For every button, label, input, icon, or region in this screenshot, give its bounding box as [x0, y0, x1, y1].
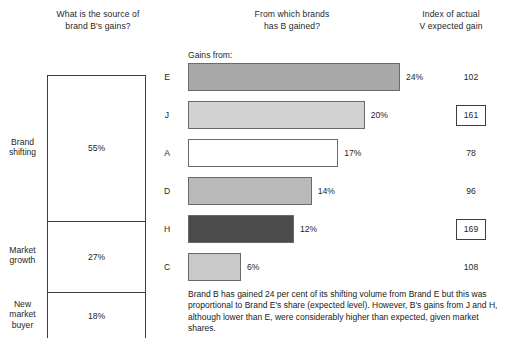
bar-fill — [188, 177, 312, 205]
index-cell: 161 — [440, 101, 502, 129]
bar-track — [188, 101, 400, 129]
bar-fill — [188, 253, 241, 281]
index-cell: 169 — [440, 215, 502, 243]
stack-segment-value: 18% — [88, 311, 105, 321]
stack-segment-label: Brandshifting — [0, 137, 45, 158]
stack-segment-label: Marketgrowth — [0, 245, 45, 266]
stack-segment-value: 55% — [88, 143, 105, 153]
bar-value-label: 6% — [247, 253, 259, 281]
heading-index-of-actual: Index of actualV expected gain — [398, 9, 504, 32]
bar-category-label: H — [160, 215, 174, 243]
heading-from-which-brands: From which brandshas B gained? — [188, 9, 396, 32]
heading-source-of-gains: What is the source ofbrand B's gains? — [14, 9, 182, 32]
index-cell: 102 — [440, 63, 502, 91]
index-value: 78 — [464, 139, 479, 167]
index-value: 102 — [462, 63, 480, 91]
bar-value-label: 24% — [406, 63, 423, 91]
stack-segment-label: Newmarketbuyer — [0, 299, 45, 331]
bar-track — [188, 177, 400, 205]
index-cell: 96 — [440, 177, 502, 205]
stack-segment: 18% — [48, 292, 145, 339]
bar-fill — [188, 139, 338, 167]
stack-segment-value: 27% — [88, 252, 105, 262]
stacked-column: 55%27%18% — [47, 75, 146, 338]
bar-category-label: J — [160, 101, 174, 129]
gains-from-label: Gains from: — [188, 50, 232, 60]
chart-caption: Brand B has gained 24 per cent of its sh… — [188, 289, 504, 335]
index-value: 108 — [462, 253, 480, 281]
bar-value-label: 20% — [371, 101, 388, 129]
index-value: 96 — [464, 177, 479, 205]
bar-category-label: D — [160, 177, 174, 205]
bar-value-label: 14% — [318, 177, 335, 205]
bar-category-label: E — [160, 63, 174, 91]
index-cell: 78 — [440, 139, 502, 167]
stack-segment: 27% — [48, 221, 145, 292]
bar-fill — [188, 215, 294, 243]
bar-value-label: 12% — [300, 215, 317, 243]
index-value-highlighted: 169 — [456, 219, 486, 240]
index-value-highlighted: 161 — [456, 105, 486, 126]
bar-fill — [188, 101, 365, 129]
bar-fill — [188, 63, 400, 91]
bar-track — [188, 63, 400, 91]
bar-track — [188, 215, 400, 243]
bar-category-label: C — [160, 253, 174, 281]
bar-category-label: A — [160, 139, 174, 167]
bar-value-label: 17% — [344, 139, 361, 167]
index-cell: 108 — [440, 253, 502, 281]
stack-segment: 55% — [48, 76, 145, 221]
bar-track — [188, 253, 400, 281]
bar-track — [188, 139, 400, 167]
chart-page: What is the source ofbrand B's gains? Fr… — [0, 0, 508, 355]
